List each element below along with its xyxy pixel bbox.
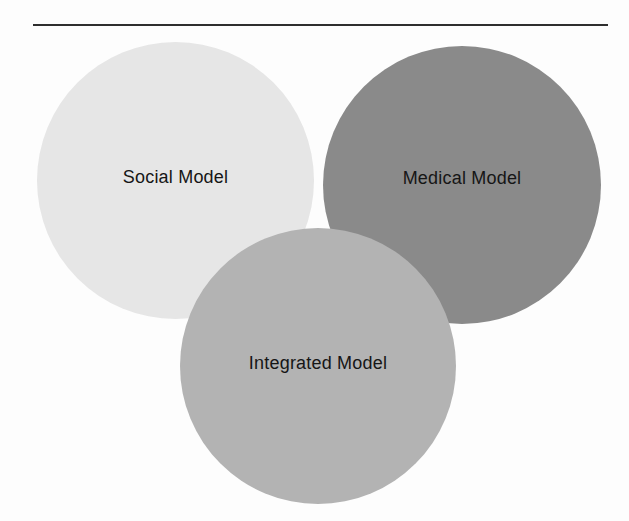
figure-page: Social Model Medical Model Integrated Mo…: [0, 0, 629, 521]
top-divider-line: [33, 24, 608, 26]
medical-model-label: Medical Model: [403, 168, 522, 189]
integrated-model-label: Integrated Model: [249, 353, 387, 374]
social-model-label: Social Model: [123, 167, 228, 188]
integrated-model-circle: Integrated Model: [180, 228, 456, 504]
